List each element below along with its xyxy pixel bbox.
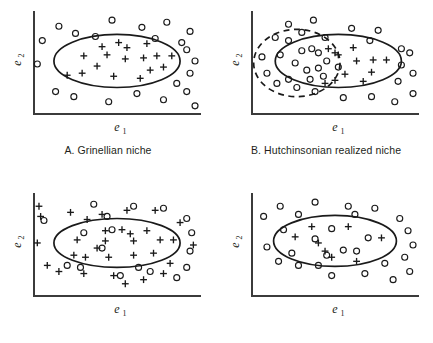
absence-marker bbox=[131, 203, 137, 209]
panel-plot-c: e1e2 bbox=[8, 186, 208, 318]
absence-marker bbox=[187, 28, 193, 34]
svg-text:2: 2 bbox=[17, 54, 26, 58]
svg-text:e: e bbox=[114, 302, 120, 316]
presence-marker bbox=[157, 237, 164, 244]
absence-marker bbox=[286, 21, 292, 27]
absence-marker bbox=[276, 258, 282, 264]
axes bbox=[34, 12, 200, 114]
y-axis-label: e2 bbox=[10, 54, 26, 66]
svg-text:e: e bbox=[228, 60, 242, 66]
absence-marker bbox=[315, 50, 321, 56]
absence-marker bbox=[73, 30, 79, 36]
absence-marker bbox=[307, 76, 313, 82]
absence-marker bbox=[292, 60, 298, 66]
presence-marker bbox=[70, 252, 77, 259]
panel-plot-d: e1e2 bbox=[226, 186, 426, 318]
absence-marker bbox=[192, 58, 198, 64]
presence-marker bbox=[119, 226, 126, 233]
presence-marker bbox=[140, 276, 147, 283]
absence-marker bbox=[309, 46, 315, 52]
absence-marker bbox=[277, 203, 283, 209]
absence-marker bbox=[187, 248, 193, 254]
absence-marker bbox=[184, 89, 190, 95]
svg-text:e: e bbox=[10, 60, 24, 66]
niche-ellipse-0 bbox=[275, 34, 401, 87]
absence-marker bbox=[354, 248, 360, 254]
presence-marker bbox=[350, 44, 357, 51]
presence-marker bbox=[80, 52, 87, 59]
presence-marker bbox=[44, 262, 51, 269]
presence-marker bbox=[127, 230, 134, 237]
panel-b: e1e2 bbox=[226, 4, 426, 136]
svg-text:e: e bbox=[10, 242, 24, 248]
absence-marker bbox=[164, 19, 170, 25]
absence-marker bbox=[324, 58, 330, 64]
absence-marker bbox=[369, 94, 375, 100]
niche-ellipse-0 bbox=[274, 215, 397, 266]
absence-marker bbox=[187, 70, 193, 76]
presence-marker bbox=[322, 80, 329, 87]
svg-text:1: 1 bbox=[123, 309, 127, 318]
absence-marker bbox=[160, 97, 166, 103]
niche-figure: e1e2A. Grinellian nichee1e2B. Hutchinson… bbox=[0, 0, 433, 343]
absence-marker bbox=[315, 65, 321, 71]
niche-ellipse-0 bbox=[54, 218, 180, 267]
presence-marker bbox=[105, 254, 112, 261]
absence-marker bbox=[402, 254, 408, 260]
absence-marker bbox=[312, 199, 318, 205]
absence-marker bbox=[184, 47, 190, 53]
svg-text:2: 2 bbox=[17, 236, 26, 240]
presence-marker bbox=[82, 254, 89, 261]
absence-marker bbox=[117, 273, 123, 279]
absence-marker bbox=[398, 46, 404, 52]
presence-marker bbox=[152, 207, 159, 214]
absence-marker bbox=[160, 205, 166, 211]
absence-marker bbox=[329, 226, 335, 232]
absence-marker bbox=[286, 38, 292, 44]
presence-marker bbox=[170, 237, 177, 244]
absence-marker bbox=[289, 250, 295, 256]
presence-marker bbox=[137, 75, 144, 82]
absence-marker bbox=[41, 218, 47, 224]
presence-marker bbox=[99, 43, 106, 50]
absence-marker bbox=[261, 213, 267, 219]
presence-marker bbox=[308, 223, 315, 230]
x-axis-label: e1 bbox=[332, 302, 344, 318]
axes bbox=[252, 194, 418, 296]
presence-marker bbox=[147, 67, 154, 74]
absence-marker bbox=[147, 269, 153, 275]
absence-marker bbox=[184, 264, 190, 270]
presence-marker bbox=[143, 40, 150, 47]
absence-marker bbox=[407, 50, 413, 56]
absence-marker bbox=[340, 247, 346, 253]
panel-plot-b: e1e2 bbox=[226, 4, 426, 136]
presence-marker bbox=[360, 78, 367, 85]
absence-marker bbox=[375, 27, 381, 33]
absence-marker bbox=[304, 67, 310, 73]
presence-marker bbox=[130, 252, 137, 259]
panel-c: e1e2 bbox=[8, 186, 208, 318]
presence-marker bbox=[190, 242, 197, 249]
y-axis-label: e2 bbox=[228, 54, 244, 66]
absence-marker bbox=[329, 273, 335, 279]
absence-marker bbox=[310, 17, 316, 23]
absence-marker bbox=[312, 89, 318, 95]
presence-marker bbox=[342, 71, 349, 78]
absence-marker bbox=[106, 99, 112, 105]
absence-marker bbox=[34, 61, 40, 67]
absence-marker bbox=[362, 271, 368, 277]
presence-marker bbox=[315, 240, 322, 247]
absence-marker bbox=[174, 275, 180, 281]
presence-marker bbox=[353, 58, 360, 65]
presence-marker bbox=[110, 272, 117, 279]
absence-marker bbox=[392, 99, 398, 105]
absence-marker bbox=[372, 205, 378, 211]
caption-panel-b: B. Hutchinsonian realized niche bbox=[226, 144, 426, 156]
presence-marker bbox=[102, 238, 109, 245]
svg-text:e: e bbox=[332, 302, 338, 316]
absence-marker bbox=[390, 277, 396, 283]
presence-marker bbox=[36, 203, 43, 210]
svg-text:2: 2 bbox=[235, 54, 244, 58]
absence-marker bbox=[299, 48, 305, 54]
absence-marker bbox=[139, 24, 145, 30]
